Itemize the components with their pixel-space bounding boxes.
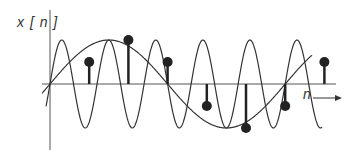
x-axis-arrow-icon — [335, 95, 342, 101]
sample-dot — [241, 123, 251, 133]
sample-dot — [123, 35, 133, 45]
sample-dot — [202, 101, 212, 111]
sample-dot — [319, 57, 329, 67]
sample-dot — [280, 101, 290, 111]
sample-dot — [84, 57, 94, 67]
sample-dot — [163, 57, 173, 67]
x-axis-label: n — [303, 86, 311, 102]
y-axis-label: x [ n ] — [17, 14, 58, 30]
